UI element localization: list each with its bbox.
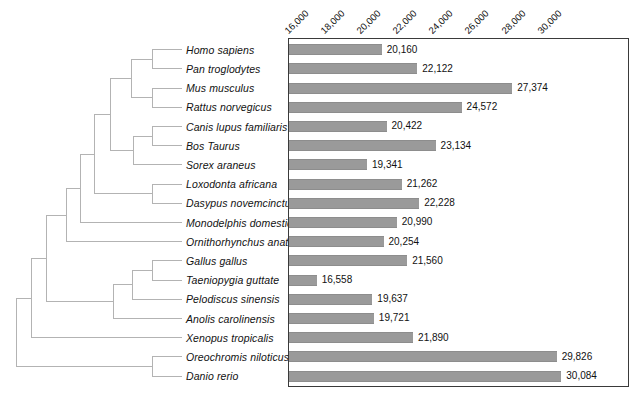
bar-row: 30,084 xyxy=(289,368,628,387)
bar-row: 19,341 xyxy=(289,156,628,175)
bar-row: 19,637 xyxy=(289,291,628,310)
bar-row: 20,990 xyxy=(289,214,628,233)
x-axis-tick-label: 18,000 xyxy=(319,8,347,36)
bar-row: 23,134 xyxy=(289,137,628,156)
species-label: Anolis carolinensis xyxy=(186,313,275,324)
bar xyxy=(289,159,367,170)
bar-value-label: 19,637 xyxy=(377,292,408,305)
species-label: Homo sapiens xyxy=(186,44,254,55)
bar-value-label: 20,160 xyxy=(387,43,418,56)
bar-value-label: 20,422 xyxy=(392,119,423,132)
bar xyxy=(289,63,417,74)
species-label: Pelodiscus sinensis xyxy=(186,294,280,305)
species-label: Danio rerio xyxy=(186,371,238,382)
species-label: Xenopus tropicalis xyxy=(186,332,274,343)
bar-row: 29,826 xyxy=(289,348,628,367)
bar-row: 21,262 xyxy=(289,176,628,195)
bar-row: 20,422 xyxy=(289,118,628,137)
bar xyxy=(289,140,436,151)
bar-row: 22,228 xyxy=(289,195,628,214)
bar xyxy=(289,275,317,286)
bar-row: 27,374 xyxy=(289,80,628,99)
species-label: Sorex araneus xyxy=(186,160,256,171)
bar-value-label: 19,721 xyxy=(379,311,410,324)
bar xyxy=(289,294,372,305)
bar-value-label: 22,228 xyxy=(424,196,455,209)
bar xyxy=(289,83,512,94)
bar xyxy=(289,236,384,247)
bar-value-label: 16,558 xyxy=(322,273,353,286)
bar xyxy=(289,332,413,343)
bar-row: 19,721 xyxy=(289,310,628,329)
species-label: Taeniopygia guttate xyxy=(186,275,279,286)
bar xyxy=(289,255,407,266)
bar-value-label: 21,560 xyxy=(412,254,443,267)
bar-value-label: 22,122 xyxy=(422,62,453,75)
species-label: Bos Taurus xyxy=(186,140,240,151)
x-axis-tick-label: 30,000 xyxy=(536,8,564,36)
bar xyxy=(289,102,462,113)
species-label: Mus musculus xyxy=(186,83,254,94)
x-axis-tick-label: 20,000 xyxy=(355,8,383,36)
bar xyxy=(289,44,382,55)
bar-row: 16,558 xyxy=(289,272,628,291)
species-label: Pan troglodytes xyxy=(186,64,260,75)
bar xyxy=(289,371,561,382)
bar-value-label: 19,341 xyxy=(372,158,403,171)
bar xyxy=(289,121,387,132)
bar-value-label: 24,572 xyxy=(467,100,498,113)
bar xyxy=(289,313,374,324)
species-label: Monodelphis domestica xyxy=(186,217,298,228)
bar-value-label: 20,254 xyxy=(389,235,420,248)
bar-chart-panel: 20,16022,12227,37424,57220,42223,13419,3… xyxy=(288,38,629,387)
bar-value-label: 27,374 xyxy=(517,81,548,94)
x-axis-tick-label: 28,000 xyxy=(500,8,528,36)
bar-value-label: 20,990 xyxy=(402,215,433,228)
bar-value-label: 29,826 xyxy=(562,350,593,363)
bar xyxy=(289,179,402,190)
bar-row: 20,254 xyxy=(289,233,628,252)
species-label: Oreochromis niloticus xyxy=(186,352,289,363)
bar xyxy=(289,217,397,228)
species-label: Dasypus novemcinctus xyxy=(186,198,296,209)
bar-row: 21,890 xyxy=(289,329,628,348)
bar-row: 21,560 xyxy=(289,252,628,271)
bar-row: 24,572 xyxy=(289,99,628,118)
bar-row: 20,160 xyxy=(289,41,628,60)
species-label-list: Homo sapiensPan troglodytesMus musculusR… xyxy=(0,0,288,393)
species-label: Rattus norvegicus xyxy=(186,102,272,113)
bar-row: 22,122 xyxy=(289,60,628,79)
species-label: Gallus gallus xyxy=(186,256,247,267)
x-axis-tick-labels: 16,00018,00020,00022,00024,00026,00028,0… xyxy=(288,0,636,38)
x-axis-tick-label: 22,000 xyxy=(391,8,419,36)
x-axis-tick-label: 24,000 xyxy=(427,8,455,36)
bar-value-label: 21,262 xyxy=(407,177,438,190)
figure-root: Homo sapiensPan troglodytesMus musculusR… xyxy=(0,0,636,393)
bar xyxy=(289,351,557,362)
species-label: Loxodonta africana xyxy=(186,179,277,190)
bar xyxy=(289,198,419,209)
bar-value-label: 21,890 xyxy=(418,331,449,344)
x-axis-tick-label: 26,000 xyxy=(463,8,491,36)
plot-area: 20,16022,12227,37424,57220,42223,13419,3… xyxy=(289,39,628,386)
species-label: Canis lupus familiaris xyxy=(186,121,287,132)
bar-value-label: 23,134 xyxy=(441,139,472,152)
bar-value-label: 30,084 xyxy=(566,369,597,382)
